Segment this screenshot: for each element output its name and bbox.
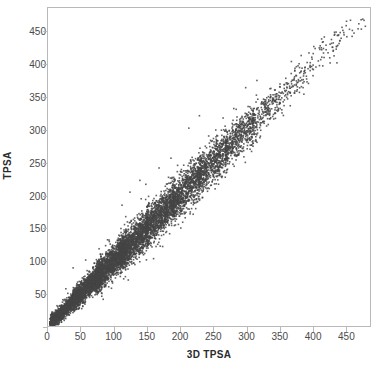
x-tick-label: 150 [138, 331, 155, 342]
plot-area [47, 7, 371, 327]
x-tick-label: 400 [305, 331, 322, 342]
x-tick-label: 50 [75, 331, 86, 342]
x-tick-mark [114, 327, 115, 332]
x-tick-label: 250 [205, 331, 222, 342]
y-tick-mark [43, 130, 48, 131]
y-tick-mark [43, 64, 48, 65]
y-axis-title-text: TPSA [3, 151, 14, 179]
x-tick-label: 0 [44, 331, 50, 342]
x-tick-mark [80, 327, 81, 332]
x-tick-label: 100 [105, 331, 122, 342]
x-tick-mark [280, 327, 281, 332]
x-tick-mark [313, 327, 314, 332]
x-tick-mark [47, 327, 48, 332]
x-tick-mark [346, 327, 347, 332]
x-tick-label: 450 [338, 331, 355, 342]
x-axis-title: 3D TPSA [47, 349, 371, 360]
scatter-plot-figure: TPSA 50100150200250300350400450 05010015… [0, 0, 383, 370]
y-tick-mark [43, 294, 48, 295]
scatter-points-layer [48, 8, 370, 326]
y-tick-mark [43, 31, 48, 32]
y-tick-mark [43, 163, 48, 164]
y-tick-mark [43, 97, 48, 98]
x-tick-mark [247, 327, 248, 332]
x-tick-mark [147, 327, 148, 332]
x-tick-mark [180, 327, 181, 332]
y-tick-mark [43, 261, 48, 262]
y-tick-mark [43, 196, 48, 197]
x-tick-mark [213, 327, 214, 332]
x-tick-label: 350 [272, 331, 289, 342]
x-tick-label: 200 [172, 331, 189, 342]
y-tick-mark [43, 228, 48, 229]
y-axis-title: TPSA [0, 0, 16, 330]
x-tick-label: 300 [238, 331, 255, 342]
